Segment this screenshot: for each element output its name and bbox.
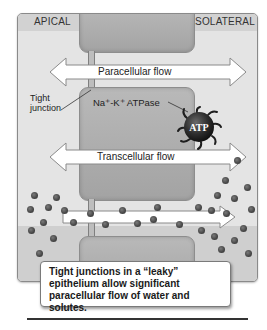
solute-dot <box>119 207 126 214</box>
apical-label: APICAL <box>34 16 71 27</box>
solute-dot <box>223 210 230 217</box>
solute-dot <box>102 221 109 228</box>
tight-junction-annotation: Tight junction <box>30 93 61 113</box>
solute-dot <box>45 204 52 211</box>
na-k-atpase-label: Na⁺-K⁺ ATPase <box>93 98 160 108</box>
paracellular-flow-label: Paracellular flow <box>98 66 171 77</box>
tight-junction-annotation-line2: junction <box>30 103 61 113</box>
solute-dot <box>211 233 218 240</box>
tight-junction-pointer-line <box>60 88 94 112</box>
solute-dot <box>218 246 225 253</box>
solute-dot <box>222 177 229 184</box>
solute-dot <box>40 219 47 226</box>
solute-dot <box>134 220 141 227</box>
epithelium-diagram-panel: APICAL BASOLATERAL Paracellular flow Tra… <box>17 13 258 282</box>
solute-dot <box>245 250 252 257</box>
solute-dot <box>61 207 68 214</box>
solute-dot <box>231 237 238 244</box>
solute-dot <box>244 184 251 191</box>
solute-dot <box>31 192 38 199</box>
epithelial-cell-top <box>79 13 195 53</box>
solute-dot <box>36 250 43 257</box>
solute-dot <box>214 192 221 199</box>
caption-box: Tight junctions in a “leaky” epithelium … <box>40 261 231 307</box>
solute-dot <box>87 210 94 217</box>
caption-text: Tight junctions in a “leaky” epithelium … <box>49 266 229 314</box>
solute-dot <box>154 204 161 211</box>
solute-dot <box>231 195 238 202</box>
solute-dot <box>195 204 202 211</box>
transcellular-flow-label: Transcellular flow <box>97 151 174 162</box>
atp-pump-icon: ATP <box>177 106 223 150</box>
solute-dot <box>28 227 35 234</box>
solute-dot <box>27 206 34 213</box>
solute-dot <box>240 225 247 232</box>
atp-badge-text: ATP <box>189 122 208 133</box>
tight-junction-annotation-line1: Tight <box>30 93 61 103</box>
solute-dot <box>70 219 77 226</box>
solute-dot <box>176 221 183 228</box>
solute-dot <box>248 206 255 213</box>
solute-dot <box>50 235 57 242</box>
solute-dot <box>208 207 215 214</box>
divider-rule <box>27 318 248 320</box>
solute-dot <box>198 227 205 234</box>
solute-dot <box>150 216 157 223</box>
solute-dot <box>234 157 241 164</box>
solute-dot <box>53 194 60 201</box>
